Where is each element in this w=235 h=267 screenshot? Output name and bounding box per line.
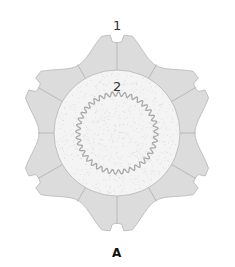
label-2: 2 — [113, 80, 121, 93]
label-1: 1 — [113, 19, 121, 32]
cell-ring-diagram — [0, 0, 235, 267]
figure-caption: A — [112, 246, 121, 260]
